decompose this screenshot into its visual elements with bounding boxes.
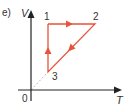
vt-cycle-diagram: e) V T 0 1 2 3 xyxy=(0,0,136,108)
point-1-label: 1 xyxy=(44,12,50,22)
arrow-3-to-1-icon xyxy=(45,47,52,54)
origin-label: 0 xyxy=(22,94,28,104)
point-3-label: 3 xyxy=(52,72,58,82)
point-2-label: 2 xyxy=(93,12,99,22)
origin-extension-line xyxy=(31,73,47,90)
t-axis-arrow-icon xyxy=(114,87,122,94)
part-label: e) xyxy=(2,8,11,18)
arrow-1-to-2-icon xyxy=(66,21,73,28)
v-axis-arrow-icon xyxy=(28,10,35,18)
v-axis-label: V xyxy=(21,8,28,19)
t-axis-label: T xyxy=(116,95,123,106)
